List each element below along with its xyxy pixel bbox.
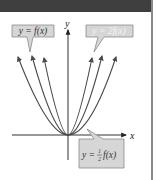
graph: x y y = f(x) y = 2f(x) (0, 0, 158, 180)
label-2fx-text: y = 2f(x) (91, 26, 125, 37)
curve-fx-right (68, 56, 102, 135)
curves (18, 56, 116, 135)
label-fx: y = f(x) (12, 25, 54, 52)
x-axis-label: x (129, 130, 135, 141)
fraction-denominator: 2 (98, 156, 101, 162)
fraction-numerator: 1 (98, 148, 101, 154)
label-halffx-suffix: f(x) (103, 150, 116, 161)
y-axis-label: y (64, 18, 70, 29)
label-fx-text: y = f(x) (18, 26, 48, 37)
curve-fx-left (32, 56, 68, 135)
label-2fx: y = 2f(x) (86, 25, 133, 52)
figure-frame: x y y = f(x) y = 2f(x) (0, 0, 158, 180)
label-halffx-text: y = (81, 150, 95, 160)
